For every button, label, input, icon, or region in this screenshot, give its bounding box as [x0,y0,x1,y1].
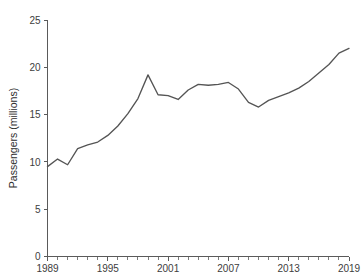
y-axis-tick-labels: 0510152025 [29,15,41,263]
x-tick-label: 2007 [217,263,240,274]
y-axis-title: Passengers (millions) [7,88,19,188]
chart-container: Passengers (millions) 0510152025 1989199… [0,0,364,280]
x-axis-tick-labels: 198919952001200720132019 [36,263,360,274]
x-tick-label: 2019 [338,263,361,274]
x-tick-label: 1995 [97,263,120,274]
x-axis: 198919952001200720132019 [36,257,360,274]
line-chart: Passengers (millions) 0510152025 1989199… [0,0,364,280]
y-axis: 0510152025 [29,15,47,263]
y-tick-label: 25 [29,15,41,26]
x-tick-label: 2013 [278,263,301,274]
plot-area [48,48,350,166]
x-tick-label: 1989 [36,263,59,274]
y-tick-label: 10 [29,157,41,168]
y-tick-label: 5 [35,204,41,215]
y-tick-label: 0 [35,251,41,262]
x-tick-label: 2001 [157,263,180,274]
y-tick-label: 20 [29,62,41,73]
y-axis-title-label: Passengers (millions) [7,88,19,188]
y-tick-label: 15 [29,109,41,120]
data-series-passengers [48,48,350,166]
y-axis-ticks [44,20,48,257]
